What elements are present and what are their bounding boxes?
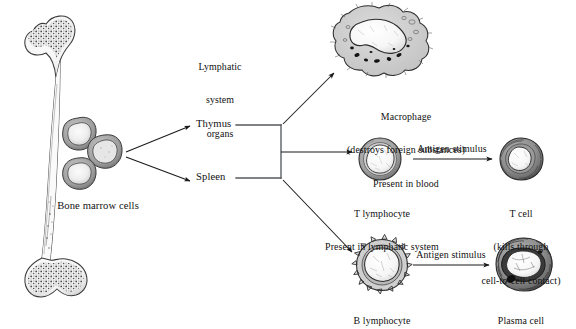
label-lymphatic-line-2: system [182,94,258,105]
label-b-lymphocyte-line-1: B lymphocyte [292,315,472,326]
label-plasma-cell-line-1: Plasma cell [456,315,576,326]
label-thymus: Thymus [196,118,231,130]
label-t-cell-line-3: cell-to-cell contact) [461,275,576,286]
macrophage-cell-illustration [330,2,433,78]
diagram-canvas: Bone marrow cells Lymphatic system organ… [0,0,576,329]
femur-bone-illustration [25,16,87,297]
label-t-lymphocyte-line-1: T lymphocyte [292,208,472,219]
label-antigen-stimulus-b: Antigen stimulus [391,249,511,260]
label-t-cell: T cell (kills through cell-to-cell conta… [461,185,576,298]
bone-marrow-cell [63,158,96,190]
label-bone-marrow-cells: Bone marrow cells [57,200,139,212]
label-b-lymphocyte: B lymphocyte Present in lymphatic system [292,292,472,329]
connector-marrow-to-thymus [126,126,190,152]
label-antigen-stimulus-t: Antigen stimulus [392,143,512,154]
label-lymphatic-system-organs: Lymphatic system organs [182,38,258,151]
label-macrophage-line-1: Macrophage [316,111,496,122]
label-plasma-cell: Plasma cell (produces antibody molecules… [456,292,576,329]
label-spleen: Spleen [196,171,225,183]
label-lymphatic-line-1: Lymphatic [182,61,258,72]
label-t-cell-line-1: T cell [461,208,576,219]
connector-marrow-to-spleen [126,157,190,181]
